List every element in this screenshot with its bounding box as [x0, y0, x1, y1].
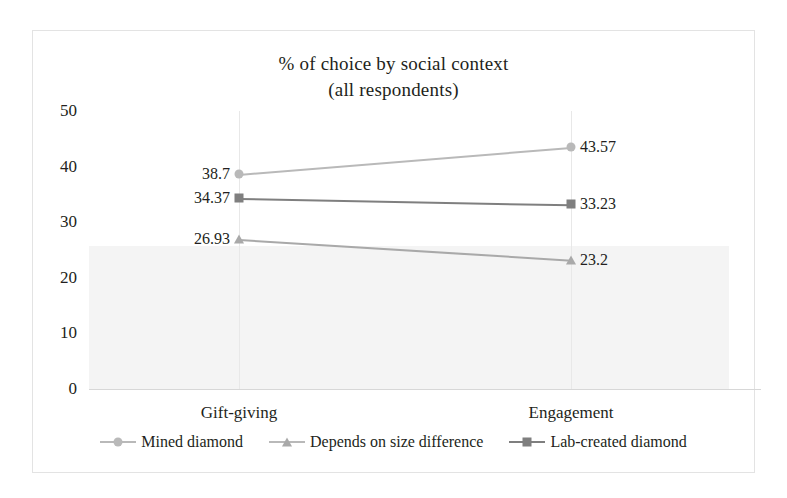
- data-label-lab-created-diamond-gift-giving: 34.37: [194, 189, 230, 207]
- series-line-lab-created-diamond: [239, 198, 571, 206]
- legend-marker-square-icon: [509, 437, 545, 448]
- y-tick-20: 20: [60, 268, 77, 288]
- data-point-depends-gift-giving: [234, 235, 244, 244]
- y-tick-0: 0: [69, 379, 78, 399]
- chart-title-line-2: (all respondents): [33, 77, 754, 103]
- data-point-mined-diamond-engagement: [567, 142, 576, 151]
- data-label-depends-gift-giving: 26.93: [194, 230, 230, 248]
- x-tick-gift-giving: Gift-giving: [201, 403, 278, 423]
- y-tick-50: 50: [60, 101, 77, 121]
- data-label-mined-diamond-gift-giving: 38.7: [202, 165, 230, 183]
- legend-item-mined-diamond[interactable]: Mined diamond: [100, 433, 243, 451]
- legend-label-lab-created-diamond: Lab-created diamond: [550, 433, 686, 451]
- shaded-band: [89, 246, 729, 389]
- legend-label-mined-diamond: Mined diamond: [141, 433, 243, 451]
- legend-marker-triangle-icon: [269, 437, 305, 448]
- data-point-lab-created-diamond-engagement: [567, 200, 576, 209]
- data-label-lab-created-diamond-engagement: 33.23: [580, 195, 616, 213]
- plot-area: 50 40 30 20 10 0 Gift-giving Engagement …: [89, 111, 761, 389]
- legend-item-lab-created-diamond[interactable]: Lab-created diamond: [509, 433, 686, 451]
- x-axis-line: [89, 389, 761, 390]
- data-label-depends-engagement: 23.2: [580, 251, 608, 269]
- data-point-lab-created-diamond-gift-giving: [235, 193, 244, 202]
- legend-marker-circle-icon: [100, 437, 136, 448]
- chart-legend: Mined diamond Depends on size difference…: [33, 433, 754, 451]
- data-point-mined-diamond-gift-giving: [235, 169, 244, 178]
- chart-title: % of choice by social context (all respo…: [33, 51, 754, 103]
- gridline-engagement: [571, 111, 572, 389]
- data-label-mined-diamond-engagement: 43.57: [580, 138, 616, 156]
- y-tick-30: 30: [60, 212, 77, 232]
- legend-item-depends-on-size-difference[interactable]: Depends on size difference: [269, 433, 483, 451]
- gridline-gift-giving: [239, 111, 240, 389]
- y-tick-10: 10: [60, 323, 77, 343]
- chart-container: % of choice by social context (all respo…: [32, 30, 755, 473]
- y-tick-40: 40: [60, 157, 77, 177]
- chart-title-line-1: % of choice by social context: [278, 53, 508, 74]
- data-point-depends-engagement: [566, 256, 576, 265]
- legend-label-depends-on-size-difference: Depends on size difference: [310, 433, 483, 451]
- series-line-mined-diamond: [239, 147, 571, 176]
- x-tick-engagement: Engagement: [529, 403, 614, 423]
